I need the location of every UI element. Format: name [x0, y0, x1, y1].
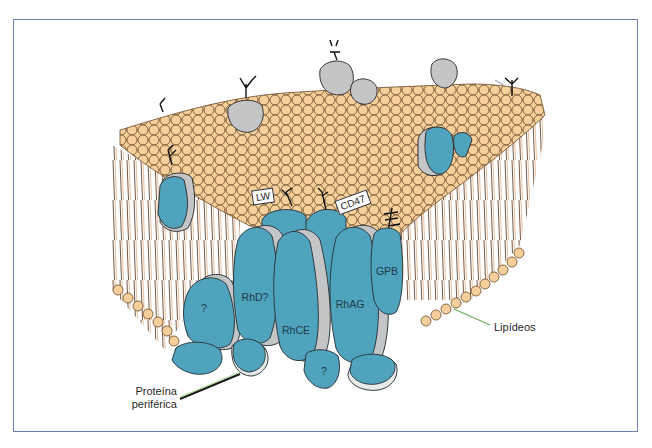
protein-label-rhce: RhCE: [282, 324, 310, 336]
protein-label-rhag: RhAG: [336, 298, 365, 310]
protein-label-rhd: RhD?: [242, 291, 269, 303]
protein-label-gpb: GPB: [376, 265, 398, 277]
protein-label-unknown-bottom: ?: [321, 365, 327, 377]
lipids-label: Lipídeos: [494, 321, 536, 334]
peripheral-protein-label-line1: Proteína: [117, 385, 177, 398]
peripheral-protein-label-line2: periférica: [107, 398, 177, 411]
peripheral-callout-line: [180, 374, 240, 399]
lipids-callout-line: [454, 309, 490, 325]
membrane-protein-left: [158, 173, 195, 231]
tag-lw: LW: [251, 188, 275, 206]
protein-label-unknown-left: ?: [201, 302, 207, 314]
membrane-diagram: [0, 0, 652, 448]
